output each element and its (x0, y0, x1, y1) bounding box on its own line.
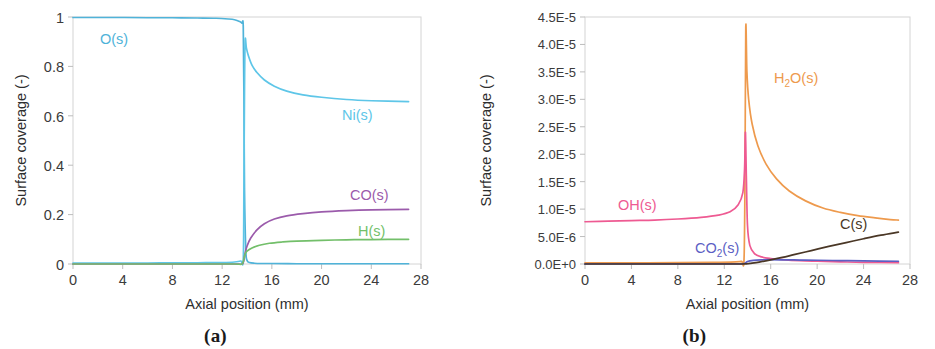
y-tick-label: 0.8 (44, 59, 64, 75)
x-tick-label: 20 (809, 272, 825, 288)
y-tick-label: 2.0E-5 (538, 147, 576, 162)
series-label-cs: C(s) (840, 216, 867, 232)
y-tick-label: 1 (56, 10, 64, 26)
x-tick-label: 8 (168, 272, 176, 288)
x-tick-label: 24 (363, 272, 379, 288)
y-tick-label: 3.0E-5 (538, 92, 576, 107)
chart-panel-b: 0.0E+05.0E-61.0E-51.5E-52.0E-52.5E-53.0E… (467, 0, 934, 349)
x-tick-label: 0 (581, 272, 589, 288)
svg-text:CO(s): CO(s) (350, 187, 389, 203)
svg-text:CO2(s): CO2(s) (695, 240, 739, 259)
y-tick-label: 0.4 (44, 158, 64, 174)
svg-text:H(s): H(s) (358, 223, 385, 239)
series-label-cos: CO(s) (350, 187, 389, 203)
chart-svg-b: 0.0E+05.0E-61.0E-51.5E-52.0E-52.5E-53.0E… (467, 0, 934, 320)
series-curve-cs (585, 232, 898, 264)
series-label-os: O(s) (100, 31, 128, 47)
x-tick-label: 8 (674, 272, 682, 288)
x-tick-label: 28 (413, 272, 429, 288)
y-tick-label: 0.0E+0 (534, 257, 576, 272)
chart-panel-a: 00.20.40.60.810481216202428Axial positio… (0, 0, 467, 349)
svg-text:Ni(s): Ni(s) (342, 107, 373, 123)
y-tick-label: 0 (56, 257, 64, 273)
x-tick-label: 28 (902, 272, 918, 288)
series-label-co2s: CO2(s) (695, 240, 739, 259)
y-tick-label: 5.0E-6 (538, 230, 576, 245)
panel-caption-b: (b) (461, 325, 928, 347)
y-tick-label: 2.5E-5 (538, 120, 576, 135)
svg-text:OH(s): OH(s) (618, 197, 657, 213)
x-axis-title: Axial position (mm) (686, 296, 809, 312)
x-tick-label: 12 (716, 272, 732, 288)
y-tick-label: 1.0E-5 (538, 202, 576, 217)
y-tick-label: 0.2 (44, 207, 64, 223)
y-tick-label: 4.5E-5 (538, 10, 576, 25)
svg-text:C(s): C(s) (840, 216, 867, 232)
x-tick-label: 0 (69, 272, 77, 288)
series-label-h2os: H2O(s) (774, 70, 818, 89)
figure-container: 00.20.40.60.810481216202428Axial positio… (0, 0, 935, 349)
series-label-nis: Ni(s) (342, 107, 373, 123)
chart-svg-a: 00.20.40.60.810481216202428Axial positio… (0, 0, 467, 320)
y-tick-label: 0.6 (44, 109, 64, 125)
x-tick-label: 4 (627, 272, 635, 288)
series-label-hs: H(s) (358, 223, 385, 239)
y-tick-label: 4.0E-5 (538, 37, 576, 52)
y-tick-label: 3.5E-5 (538, 65, 576, 80)
svg-text:H2O(s): H2O(s) (774, 70, 818, 89)
series-label-ohs: OH(s) (618, 197, 657, 213)
y-axis-title: Surface coverage (-) (13, 74, 29, 206)
x-tick-label: 4 (119, 272, 127, 288)
x-tick-label: 20 (314, 272, 330, 288)
svg-text:O(s): O(s) (100, 31, 128, 47)
x-tick-label: 24 (856, 272, 872, 288)
x-tick-label: 12 (214, 272, 230, 288)
panel-caption-a: (a) (0, 325, 449, 347)
y-axis-title: Surface coverage (-) (478, 74, 494, 206)
x-axis-title: Axial position (mm) (185, 296, 308, 312)
x-tick-label: 16 (264, 272, 280, 288)
x-tick-label: 16 (763, 272, 779, 288)
y-tick-label: 1.5E-5 (538, 175, 576, 190)
